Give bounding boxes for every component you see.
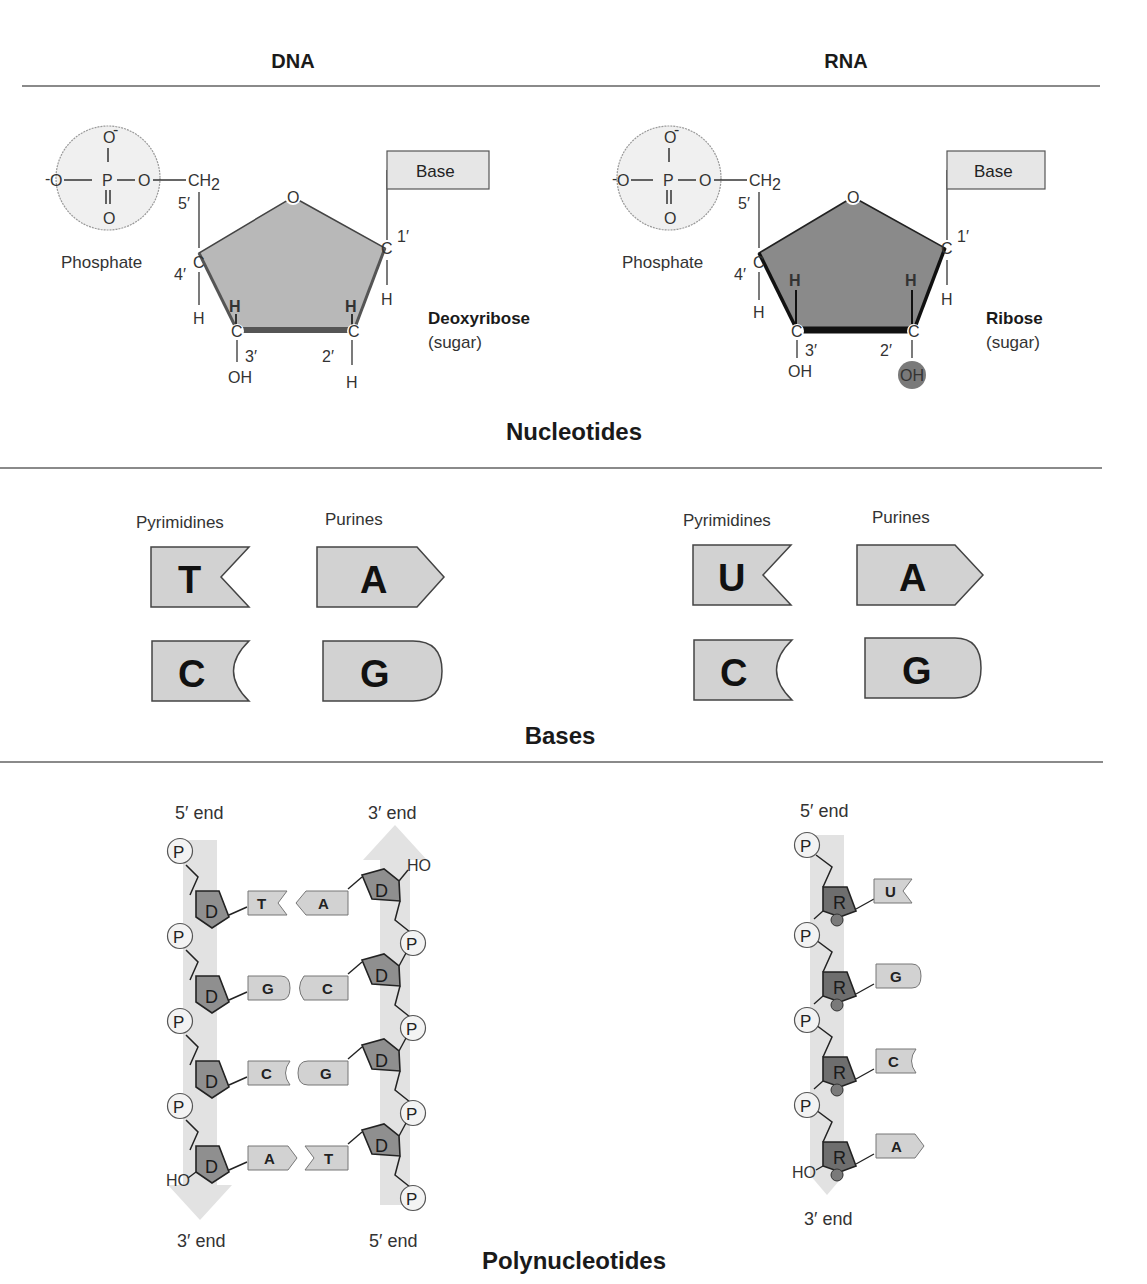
svg-text:P: P [173, 843, 184, 862]
svg-text:HO: HO [166, 1172, 190, 1189]
divider-bases [0, 761, 1103, 763]
svg-text:D: D [375, 966, 388, 986]
svg-text:P: P [800, 837, 811, 856]
svg-text:CH: CH [749, 172, 772, 189]
left-nucleotide-3: D P [168, 1009, 248, 1099]
right-nucleotide-4: D P [348, 1123, 426, 1211]
svg-text:R: R [833, 1148, 846, 1168]
section-title-bases: Bases [360, 722, 760, 750]
svg-text:G: G [320, 1065, 332, 1082]
svg-text:R: R [833, 893, 846, 913]
svg-text:P: P [406, 1190, 417, 1209]
dna-bases-diagram: Pyrimidines Purines T A C G [120, 495, 480, 715]
svg-text:O: O [699, 172, 711, 189]
svg-text:P: P [663, 172, 674, 189]
svg-text:3′: 3′ [245, 348, 257, 365]
svg-text:U: U [885, 883, 896, 900]
svg-text:O: O [847, 189, 859, 206]
svg-text:O: O [138, 172, 150, 189]
svg-text:P: P [173, 1013, 184, 1032]
svg-text:OH: OH [788, 363, 812, 380]
dna-polynucleotide-units: D P D P D P D P HO D HO P [150, 795, 450, 1255]
svg-text:U: U [718, 557, 745, 599]
svg-text:O: O [664, 210, 676, 227]
rna-polynucleotide-diagram: 5′ end 3′ end R U P R G P R C P [770, 795, 970, 1235]
svg-text:HO: HO [407, 857, 431, 874]
svg-text:O: O [287, 189, 299, 206]
svg-text:5′ end: 5′ end [800, 801, 848, 821]
svg-text:P: P [406, 935, 417, 954]
ribose-label: Ribose [986, 309, 1043, 328]
svg-text:T: T [324, 1150, 333, 1167]
svg-text:P: P [800, 1097, 811, 1116]
svg-text:C: C [348, 323, 360, 340]
svg-text:C: C [231, 323, 243, 340]
svg-text:-: - [113, 121, 118, 138]
svg-text:C: C [261, 1065, 272, 1082]
svg-text:4′: 4′ [174, 266, 186, 283]
pyrimidines-label: Pyrimidines [136, 513, 224, 532]
svg-text:H: H [346, 374, 358, 391]
svg-text:P: P [800, 927, 811, 946]
svg-text:4′: 4′ [734, 266, 746, 283]
purines-label: Purines [325, 510, 383, 529]
svg-text:C: C [193, 254, 205, 271]
base-pair-3: C G [248, 1061, 348, 1085]
svg-text:D: D [205, 1072, 218, 1092]
right-nucleotide-2: D P [348, 953, 426, 1041]
section-title-nucleotides: Nucleotides [374, 418, 774, 446]
svg-text:3′: 3′ [805, 342, 817, 359]
right-nucleotide-3: D P [348, 1038, 426, 1126]
svg-text:C: C [178, 653, 205, 695]
svg-text:HO: HO [792, 1164, 816, 1181]
svg-text:T: T [178, 559, 201, 601]
svg-text:C: C [753, 254, 765, 271]
pyrimidines-label: Pyrimidines [683, 511, 771, 530]
svg-text:O: O [103, 210, 115, 227]
svg-text:A: A [360, 559, 387, 601]
svg-text:H: H [345, 298, 357, 315]
svg-text:O: O [617, 172, 629, 189]
base-pair-2: G C [248, 976, 348, 1000]
divider-nucleotides [0, 467, 1102, 469]
svg-text:H: H [381, 291, 393, 308]
svg-text:A: A [318, 895, 329, 912]
svg-text:D: D [205, 1157, 218, 1177]
svg-text:5′: 5′ [738, 195, 750, 212]
svg-text:D: D [375, 1051, 388, 1071]
svg-text:CH: CH [188, 172, 211, 189]
svg-text:C: C [381, 240, 393, 257]
base-pair-4: A T [248, 1146, 348, 1170]
svg-text:R: R [833, 1063, 846, 1083]
svg-text:OH: OH [228, 369, 252, 386]
svg-text:P: P [102, 172, 113, 189]
svg-text:P: P [173, 1098, 184, 1117]
dna-column-title: DNA [193, 50, 393, 73]
svg-text:5′: 5′ [178, 195, 190, 212]
rna-bases-diagram: Pyrimidines Purines U A C G [670, 495, 1030, 715]
svg-text:D: D [205, 987, 218, 1007]
svg-text:-: - [674, 121, 679, 138]
svg-text:P: P [406, 1020, 417, 1039]
svg-text:A: A [899, 557, 926, 599]
svg-text:O: O [50, 172, 62, 189]
svg-text:P: P [173, 928, 184, 947]
svg-text:1′: 1′ [957, 228, 969, 245]
dna-nucleotide-diagram: O - - O P O O CH 2 5′ Phosphate O C 4′ H… [0, 100, 580, 410]
phosphate-label: Phosphate [622, 253, 703, 272]
rna-nucleotide-diagram: O - - O P O O CH 2 5′ Phosphate O C 4′ H… [560, 100, 1147, 410]
svg-text:1′: 1′ [397, 228, 409, 245]
svg-text:D: D [205, 902, 218, 922]
svg-text:P: P [406, 1105, 417, 1124]
svg-text:OH: OH [900, 367, 924, 384]
left-nucleotide-4: D P HO [166, 1094, 247, 1190]
right-nucleotide-1: D HO P [348, 857, 431, 956]
svg-text:H: H [905, 272, 917, 289]
svg-text:C: C [791, 323, 803, 340]
divider-top [22, 85, 1100, 87]
svg-text:H: H [193, 310, 205, 327]
purines-label: Purines [872, 508, 930, 527]
svg-text:D: D [375, 881, 388, 901]
svg-text:A: A [891, 1138, 902, 1155]
svg-text:G: G [890, 968, 902, 985]
